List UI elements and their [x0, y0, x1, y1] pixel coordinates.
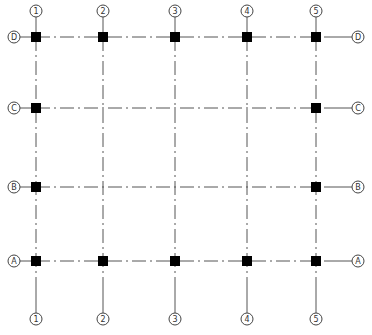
grid-plan-canvas: 1122334455DDCCBBAA — [0, 0, 372, 335]
axis-label: A — [355, 257, 361, 266]
axis-bubble-left-B: B — [8, 181, 20, 193]
column-marker-5-A — [311, 256, 321, 266]
axis-bubble-left-D: D — [8, 31, 20, 43]
axis-bubble-right-A: A — [352, 255, 364, 267]
axis-label: 5 — [313, 7, 318, 16]
column-marker-1-C — [31, 103, 41, 113]
axis-label: 5 — [313, 315, 318, 324]
axis-label: 2 — [100, 7, 105, 16]
axis-label: D — [11, 33, 17, 42]
axis-label: B — [355, 183, 361, 192]
axis-label: B — [11, 183, 17, 192]
column-marker-4-D — [242, 32, 252, 42]
axis-bubble-bottom-2: 2 — [97, 313, 109, 325]
axis-bubble-bottom-1: 1 — [30, 313, 42, 325]
axis-bubble-left-C: C — [8, 102, 20, 114]
axis-lines — [20, 17, 352, 313]
column-marker-3-D — [170, 32, 180, 42]
column-marker-1-B — [31, 182, 41, 192]
column-marker-5-D — [311, 32, 321, 42]
column-marker-2-D — [98, 32, 108, 42]
axis-bubble-top-4: 4 — [241, 5, 253, 17]
axis-label: C — [355, 104, 361, 113]
axis-label: 4 — [244, 7, 249, 16]
axis-bubble-top-1: 1 — [30, 5, 42, 17]
axis-label: A — [11, 257, 17, 266]
axis-bubble-bottom-3: 3 — [169, 313, 181, 325]
axis-bubble-right-B: B — [352, 181, 364, 193]
axis-label: D — [355, 33, 361, 42]
axis-bubble-bottom-4: 4 — [241, 313, 253, 325]
axis-bubble-right-D: D — [352, 31, 364, 43]
axis-bubbles: 1122334455DDCCBBAA — [8, 5, 364, 325]
column-marker-2-A — [98, 256, 108, 266]
axis-bubble-right-C: C — [352, 102, 364, 114]
column-marker-5-C — [311, 103, 321, 113]
axis-label: 3 — [172, 315, 177, 324]
axis-bubble-top-3: 3 — [169, 5, 181, 17]
axis-label: 1 — [33, 315, 38, 324]
axis-label: 3 — [172, 7, 177, 16]
axis-bubble-bottom-5: 5 — [310, 313, 322, 325]
column-marker-4-A — [242, 256, 252, 266]
column-markers — [31, 32, 321, 266]
axis-label: 4 — [244, 315, 249, 324]
axis-bubble-top-5: 5 — [310, 5, 322, 17]
axis-label: 1 — [33, 7, 38, 16]
axis-bubble-left-A: A — [8, 255, 20, 267]
axis-bubble-top-2: 2 — [97, 5, 109, 17]
axis-label: C — [11, 104, 17, 113]
structural-grid-plan: 1122334455DDCCBBAA — [0, 0, 372, 335]
column-marker-1-A — [31, 256, 41, 266]
axis-label: 2 — [100, 315, 105, 324]
column-marker-5-B — [311, 182, 321, 192]
column-marker-1-D — [31, 32, 41, 42]
column-marker-3-A — [170, 256, 180, 266]
